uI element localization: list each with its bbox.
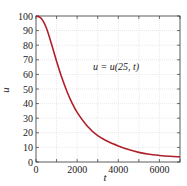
y-tick-label: 70 xyxy=(23,54,33,65)
y-tick-label: 60 xyxy=(23,69,33,80)
y-tick-label: 90 xyxy=(23,25,33,36)
y-axis-tick-labels: 0102030405060708090100 xyxy=(18,11,33,168)
y-tick-label: 10 xyxy=(23,142,33,153)
x-tick-label: 6000 xyxy=(149,164,169,175)
series-line-u-25-t xyxy=(36,16,180,157)
y-tick-label: 40 xyxy=(23,98,33,109)
x-axis-label: t xyxy=(103,171,107,183)
x-tick-label: 2000 xyxy=(67,164,87,175)
y-tick-label: 100 xyxy=(18,11,33,22)
grid-lines xyxy=(36,16,180,162)
x-tick-label: 4000 xyxy=(108,164,128,175)
y-tick-label: 50 xyxy=(23,84,33,95)
y-tick-label: 20 xyxy=(23,127,33,138)
y-tick-label: 30 xyxy=(23,113,33,124)
y-axis-label: u xyxy=(0,87,11,93)
x-axis-tick-labels: 0200040006000 xyxy=(34,164,170,175)
x-tick-label: 0 xyxy=(34,164,39,175)
line-chart: 0102030405060708090100 0200040006000 u =… xyxy=(0,0,187,186)
y-tick-label: 80 xyxy=(23,40,33,51)
curve-annotation: u = u(25, t) xyxy=(93,61,140,73)
y-tick-label: 0 xyxy=(28,157,33,168)
